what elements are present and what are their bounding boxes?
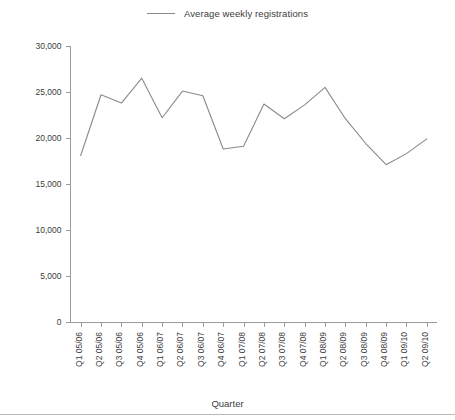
x-axis-tick-label: Q1 05/06 <box>74 332 84 367</box>
x-axis-title: Quarter <box>0 398 455 409</box>
x-axis-tick-label: Q3 07/08 <box>277 332 287 367</box>
x-axis-tick-label: Q3 06/07 <box>196 332 206 367</box>
chart-container: Average weekly registrations 05,00010,00… <box>0 0 455 420</box>
y-axis-tick-label: 15,000 <box>36 179 62 189</box>
y-axis-tick-label: 30,000 <box>36 41 62 51</box>
x-axis-tick-label: Q2 06/07 <box>175 332 185 367</box>
x-axis-tick-label: Q4 07/08 <box>298 332 308 367</box>
x-axis-tick-label: Q4 06/07 <box>216 332 226 367</box>
x-axis-tick-label: Q2 09/10 <box>420 332 430 367</box>
y-axis-tick-label: 20,000 <box>36 133 62 143</box>
x-axis-tick-label: Q1 09/10 <box>399 332 409 367</box>
x-axis-tick-label: Q3 08/09 <box>359 332 369 367</box>
x-axis-tick-label: Q1 06/07 <box>155 332 165 367</box>
x-axis-tick-label: Q4 05/06 <box>135 332 145 367</box>
footer-divider <box>0 414 455 415</box>
x-axis-tick-label: Q1 08/09 <box>318 332 328 367</box>
series-line-average-weekly-registrations <box>81 78 427 164</box>
x-axis-tick-label: Q1 07/08 <box>237 332 247 367</box>
y-axis-tick-label: 25,000 <box>36 87 62 97</box>
y-axis-tick-label: 10,000 <box>36 225 62 235</box>
y-axis: 05,00010,00015,00020,00025,00030,000 <box>36 41 71 327</box>
x-axis: Q1 05/06Q2 05/06Q3 05/06Q4 05/06Q1 06/07… <box>74 322 430 367</box>
x-axis-tick-label: Q4 08/09 <box>379 332 389 367</box>
x-axis-tick-label: Q2 05/06 <box>94 332 104 367</box>
x-axis-tick-label: Q2 07/08 <box>257 332 267 367</box>
x-axis-tick-label: Q2 08/09 <box>338 332 348 367</box>
x-axis-tick-label: Q3 05/06 <box>114 332 124 367</box>
y-axis-tick-label: 5,000 <box>40 271 62 281</box>
plot-area: 05,00010,00015,00020,00025,00030,000 Q1 … <box>0 0 455 420</box>
y-axis-tick-label: 0 <box>57 317 62 327</box>
